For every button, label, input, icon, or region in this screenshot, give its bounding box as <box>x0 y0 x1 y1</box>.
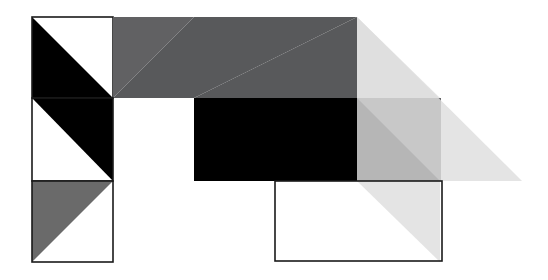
artboard: Abstract geometric composition of black,… <box>0 0 548 280</box>
black-rectangle-center <box>194 98 357 181</box>
group-top-second-cell <box>113 17 194 98</box>
group-top-large-block <box>194 17 357 98</box>
geometric-composition: Abstract geometric composition of black,… <box>0 0 548 280</box>
